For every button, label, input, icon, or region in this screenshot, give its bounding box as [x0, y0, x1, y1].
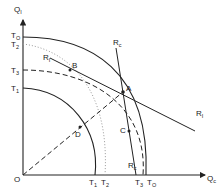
- origin-label: O: [14, 175, 20, 184]
- label-B: B: [72, 61, 77, 70]
- y-axis-label: QI: [14, 5, 22, 15]
- diagram-canvas: QI Qc O TO T2 T3 T1 T1 T2 T3 TO A B C D …: [0, 0, 224, 194]
- curve-T0: [23, 37, 146, 175]
- label-A: A: [126, 84, 132, 93]
- label-Rc-top: Rc: [113, 38, 122, 48]
- label-Rc-bottom: Rc: [128, 161, 137, 171]
- y-tick-T3: T3: [11, 66, 19, 76]
- point-C: [128, 130, 131, 133]
- point-A: [121, 90, 125, 94]
- x-tick-T1: T1: [89, 178, 97, 188]
- label-D: D: [75, 130, 81, 139]
- x-tick-T2: T2: [101, 178, 109, 188]
- y-tick-T2: T2: [11, 40, 19, 50]
- label-C: C: [120, 126, 126, 135]
- ray-OA: [23, 92, 123, 175]
- transformation-curve-diagram: QI Qc O TO T2 T3 T1 T1 T2 T3 TO A B C D …: [0, 0, 224, 194]
- label-RI-left: RI: [43, 53, 51, 63]
- label-RI-right: RI: [196, 109, 204, 119]
- point-D: [79, 126, 82, 129]
- x-axis-label: Qc: [207, 174, 216, 184]
- x-tick-T3: T3: [135, 178, 143, 188]
- curve-T1: [23, 88, 96, 175]
- y-tick-T1: T1: [11, 84, 19, 94]
- x-tick-T0: TO: [147, 178, 157, 188]
- curve-T2: [23, 44, 105, 175]
- line-Rc: [116, 48, 136, 175]
